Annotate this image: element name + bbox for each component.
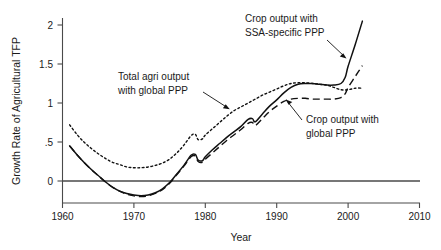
y-tick-label-p5: .5 (45, 137, 54, 148)
x-tick-label-1980: 1980 (194, 211, 217, 222)
annotation-global-arrow-icon (286, 99, 293, 104)
annotation-global-line2: global PPP (306, 128, 356, 139)
annotation-global-line1: Crop output with (306, 114, 379, 125)
annotation-total-line2: with global PPP (117, 85, 188, 96)
x-axis-title: Year (230, 231, 252, 243)
series-line-crop-output-ssa-ppp (70, 21, 363, 196)
annotation-total-line1: Total agri output (118, 71, 189, 82)
growth-rate-line-chart: 2 1.5 1 .5 0 1960 1970 1980 1990 2000 20… (0, 0, 441, 250)
annotation-ssa-line2: SSA-specific PPP (245, 27, 325, 38)
annotation-ssa-specific-ppp: Crop output with SSA-specific PPP (245, 13, 347, 59)
annotation-total-leader (203, 92, 228, 108)
y-tick-label-1: 1 (47, 98, 53, 109)
annotation-crop-output-global-ppp: Crop output with global PPP (286, 99, 379, 139)
y-tick-label-2: 2 (47, 20, 53, 31)
x-axis-ticks: 1960 1970 1980 1990 2000 2010 (51, 203, 431, 222)
y-axis-ticks: 2 1.5 1 .5 0 (39, 20, 62, 187)
annotation-ssa-arrow-icon (340, 53, 347, 58)
annotation-total-agri-output: Total agri output with global PPP (117, 71, 230, 109)
y-tick-label-1p5: 1.5 (39, 59, 53, 70)
x-tick-label-2000: 2000 (337, 211, 360, 222)
x-tick-label-2010: 2010 (408, 211, 431, 222)
chart-figure: 2 1.5 1 .5 0 1960 1970 1980 1990 2000 20… (0, 0, 441, 250)
x-tick-label-1960: 1960 (51, 211, 74, 222)
y-tick-label-0: 0 (47, 176, 53, 187)
annotation-ssa-line1: Crop output with (245, 13, 318, 24)
series-line-total-agri-output-global-ppp (70, 83, 363, 168)
x-tick-label-1990: 1990 (266, 211, 289, 222)
x-tick-label-1970: 1970 (123, 211, 146, 222)
y-axis-title: Growth Rate of Agricultural TFP (10, 37, 22, 185)
